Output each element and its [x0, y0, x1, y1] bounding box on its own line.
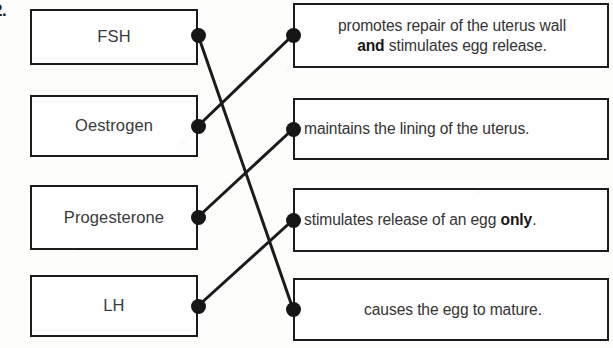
function-box-egg-to-mature[interactable]: causes the egg to mature. — [293, 278, 609, 341]
matching-exercise-page: 2. FSH Oestrogen Progesterone LH promote… — [0, 0, 613, 348]
function-box-release-egg-only[interactable]: stimulates release of an egg only. — [293, 188, 609, 252]
hormone-label-lh: LH — [103, 295, 124, 316]
function-text-line1: promotes repair of the uterus wall — [338, 17, 566, 34]
function-text-suffix: . — [532, 211, 536, 228]
dot-progesterone[interactable] — [191, 210, 206, 225]
function-text-prefix: stimulates release of an egg — [304, 211, 500, 228]
hormone-label-oestrogen: Oestrogen — [75, 115, 153, 136]
function-box-repair-and-release[interactable]: promotes repair of the uterus wall and s… — [293, 3, 609, 68]
hormone-box-fsh[interactable]: FSH — [30, 9, 198, 65]
dot-repair-and-release[interactable] — [286, 28, 301, 43]
link-progesterone-to-maintains — [198, 129, 293, 217]
hormone-box-oestrogen[interactable]: Oestrogen — [30, 95, 198, 157]
hormone-box-progesterone[interactable]: Progesterone — [30, 185, 198, 250]
dot-fsh[interactable] — [191, 28, 206, 43]
function-text-line2-rest: stimulates egg release. — [385, 37, 547, 54]
link-lh-to-release-egg-only — [198, 220, 293, 306]
dot-lh[interactable] — [191, 299, 206, 314]
function-text-emphasis-and: and — [357, 37, 384, 54]
function-text-egg-to-mature: causes the egg to mature. — [355, 300, 547, 320]
dot-release-egg-only[interactable] — [286, 213, 301, 228]
hormone-label-progesterone: Progesterone — [64, 207, 164, 228]
function-text-repair-and-release: promotes repair of the uterus wall and s… — [295, 16, 607, 56]
dot-maintains-lining[interactable] — [286, 122, 301, 137]
dot-oestrogen[interactable] — [191, 119, 206, 134]
function-text-maintains-lining: maintains the lining of the uterus. — [295, 119, 534, 139]
function-text-release-egg-only: stimulates release of an egg only. — [295, 210, 541, 230]
hormone-box-lh[interactable]: LH — [30, 275, 198, 337]
function-text-emphasis-only: only — [500, 211, 532, 228]
dot-egg-to-mature[interactable] — [286, 302, 301, 317]
function-box-maintains-lining[interactable]: maintains the lining of the uterus. — [293, 98, 609, 160]
hormone-label-fsh: FSH — [97, 26, 130, 47]
